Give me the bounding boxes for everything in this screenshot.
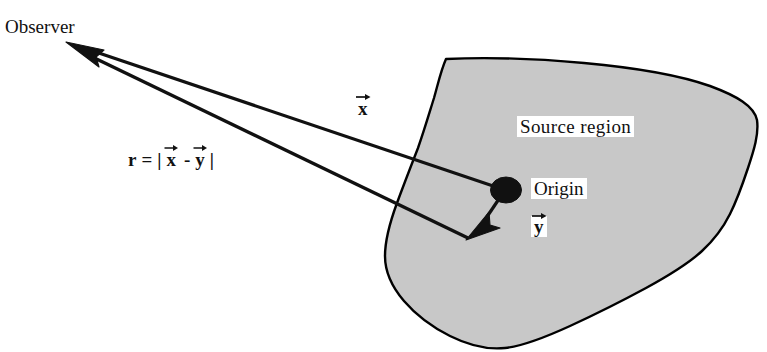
observer-label: Observer <box>5 17 75 36</box>
r-equation: r = | x - y | <box>128 150 214 169</box>
source-region-label: Source region <box>517 116 634 137</box>
y-vector-label: y <box>531 216 547 237</box>
r-equation-lhs: r <box>128 150 136 169</box>
origin-dot <box>491 177 522 203</box>
diagram-vector-artwork <box>0 0 767 352</box>
r-equation-term2: y <box>195 150 205 169</box>
r-equation-close-bar: | <box>210 150 214 169</box>
origin-label: Origin <box>531 178 587 199</box>
observer-arrowhead-icon <box>66 42 104 67</box>
r-vector-line <box>82 52 468 238</box>
r-equation-open-bar: | <box>157 150 161 169</box>
r-equation-term1: x <box>166 150 176 169</box>
figure-canvas: Observer Source region Origin x y r = | <box>0 0 767 352</box>
x-vector-symbol-group: x <box>358 99 368 118</box>
x-vector-label: x <box>358 99 368 118</box>
r-equation-x-vector-group: x <box>166 150 176 169</box>
x-vector-symbol: x <box>358 99 368 118</box>
source-region-shape <box>385 58 757 348</box>
r-equation-y-vector-group: y <box>195 150 205 169</box>
r-equation-equals: = <box>141 150 152 169</box>
y-vector-symbol-group: y <box>534 217 544 236</box>
r-equation-minus: - <box>184 150 190 169</box>
y-vector-symbol: y <box>534 217 544 236</box>
